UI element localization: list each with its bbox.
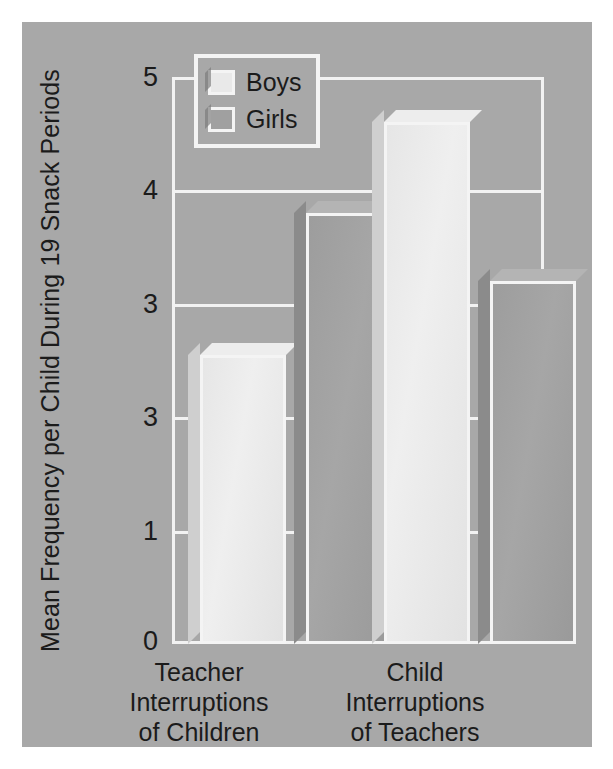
bar-top-3d <box>384 110 482 122</box>
legend-label-girls: Girls <box>246 107 297 132</box>
boys-swatch-icon <box>208 70 235 95</box>
y-tick-label-5: 5 <box>143 64 158 91</box>
bar-face <box>384 122 470 644</box>
y-axis-title: Mean Frequency per Child During 19 Snack… <box>30 77 70 644</box>
x-category-line-1: Child <box>300 657 530 687</box>
x-category-label-teacher-interruptions: Teacher Interruptions of Children <box>84 657 314 747</box>
plot-area: 5 4 3 3 1 0 <box>172 77 544 644</box>
bar-top-3d <box>490 269 588 281</box>
x-category-line-2: Interruptions <box>300 687 530 717</box>
y-tick-label-2: 3 <box>143 404 158 431</box>
y-tick-label-1: 1 <box>143 518 158 545</box>
bar-side-3d <box>372 110 384 644</box>
bar-side-3d <box>188 343 200 644</box>
bar-girls-child-interruptions[interactable] <box>490 281 576 644</box>
legend-entry-boys[interactable]: Boys <box>208 67 306 97</box>
bar-face <box>200 355 286 644</box>
bar-top-3d <box>200 343 298 355</box>
legend-label-boys: Boys <box>246 70 302 95</box>
bar-boys-teacher-interruptions[interactable] <box>200 355 286 644</box>
x-category-line-3: of Teachers <box>300 717 530 747</box>
y-axis-title-text: Mean Frequency per Child During 19 Snack… <box>36 69 65 652</box>
y-axis-line <box>172 77 175 644</box>
bar-side-3d <box>478 269 490 644</box>
bar-side-3d <box>294 201 306 644</box>
bar-boys-child-interruptions[interactable] <box>384 122 470 644</box>
x-category-label-child-interruptions: Child Interruptions of Teachers <box>300 657 530 747</box>
legend-entry-girls[interactable]: Girls <box>208 104 306 134</box>
bar-face <box>490 281 576 644</box>
y-tick-label-4: 4 <box>143 177 158 204</box>
legend: Boys Girls <box>194 54 320 148</box>
x-category-line-3: of Children <box>84 717 314 747</box>
y-tick-label-3: 3 <box>143 291 158 318</box>
girls-swatch-icon <box>208 107 235 132</box>
x-category-line-1: Teacher <box>84 657 314 687</box>
x-category-line-2: Interruptions <box>84 687 314 717</box>
gridline-4: 4 <box>172 190 544 193</box>
chart-figure: Mean Frequency per Child During 19 Snack… <box>22 22 592 747</box>
y-tick-label-0: 0 <box>143 628 158 655</box>
